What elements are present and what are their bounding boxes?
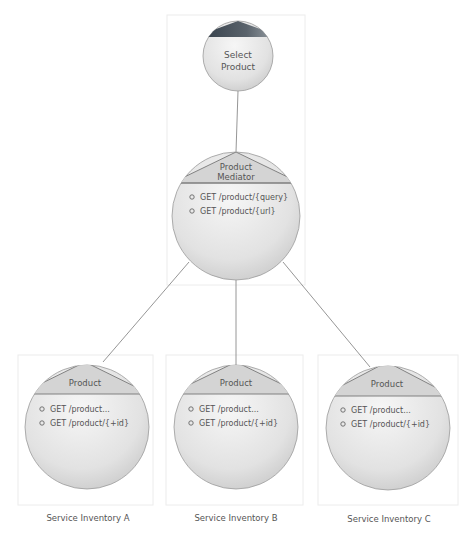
service-c-operation: GET /product/{+id} <box>351 420 430 429</box>
mediator-operation: GET /product/{url} <box>200 207 276 216</box>
service-a-operation: GET /product/{+id} <box>50 419 129 428</box>
service-inventory-b-label: Service Inventory B <box>194 513 277 523</box>
select-product-label-line2: Product <box>221 62 256 72</box>
product-mediator-node: Product Mediator GET /product/{query} GE… <box>172 152 300 280</box>
service-product-c: Product GET /product... GET /product/{+i… <box>322 362 452 524</box>
mediator-operation: GET /product/{query} <box>200 193 288 202</box>
select-product-node: Select Product <box>194 21 282 91</box>
connector-mediator-to-c <box>283 262 370 367</box>
diagram-canvas: Select Product Product Mediator GET /pro… <box>0 0 471 534</box>
service-a-title: Product <box>69 378 102 388</box>
service-product-a: Product GET /product... GET /product/{+i… <box>20 362 150 523</box>
mediator-title-line2: Mediator <box>217 172 255 182</box>
connector-top-to-mediator <box>236 91 238 152</box>
service-b-title: Product <box>220 378 253 388</box>
select-product-label-line1: Select <box>224 50 252 60</box>
select-product-cap <box>194 21 282 37</box>
service-product-b: Product GET /product... GET /product/{+i… <box>170 362 302 523</box>
service-inventory-a-label: Service Inventory A <box>46 513 129 523</box>
service-c-operation: GET /product... <box>351 406 411 415</box>
connector-mediator-to-a <box>103 262 189 362</box>
service-c-title: Product <box>371 379 404 389</box>
service-inventory-c-label: Service Inventory C <box>347 514 430 524</box>
service-a-operation: GET /product... <box>50 405 110 414</box>
service-b-operation: GET /product/{+id} <box>199 419 278 428</box>
service-b-operation: GET /product... <box>199 405 259 414</box>
mediator-title-line1: Product <box>220 162 253 172</box>
